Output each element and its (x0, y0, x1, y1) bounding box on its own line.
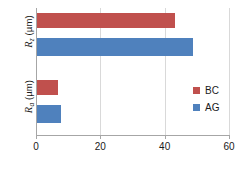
x-tick-mark-20 (100, 135, 101, 139)
x-tick-label-40: 40 (153, 141, 177, 152)
x-axis-line (36, 135, 229, 136)
y-axis-category-label-ra: Ra (µm) (23, 67, 36, 127)
x-tick-mark-60 (229, 135, 230, 139)
legend-item-bc: BC (193, 82, 245, 99)
bar-rz-ag (37, 38, 193, 56)
x-tick-mark-40 (165, 135, 166, 139)
x-tick-label-60: 60 (217, 141, 241, 152)
y-axis-rz-symbol: R (23, 41, 34, 48)
legend-item-ag: AG (193, 99, 245, 116)
x-tick-label-20: 20 (88, 141, 112, 152)
legend-swatch-ag-icon (193, 104, 200, 111)
bar-ra-ag (37, 105, 61, 123)
y-axis-rz-unit: (µm) (23, 15, 34, 35)
legend: BC AG (193, 82, 245, 116)
y-axis-rz-subscript: z (27, 38, 36, 41)
bar-ra-bc (37, 80, 58, 95)
legend-label-bc: BC (205, 86, 219, 96)
y-axis-ra-unit: (µm) (23, 80, 34, 100)
legend-label-ag: AG (205, 103, 219, 113)
y-axis-ra-subscript: a (27, 103, 36, 107)
y-axis-category-label-rz: Rz (µm) (23, 2, 36, 62)
bar-chart: Rz (µm) Ra (µm) 0204060 BC AG (0, 0, 247, 169)
y-axis-ra-symbol: R (23, 107, 34, 114)
x-tick-mark-0 (36, 135, 37, 139)
x-tick-label-0: 0 (24, 141, 48, 152)
bar-rz-bc (37, 13, 175, 28)
legend-swatch-bc-icon (193, 87, 200, 94)
